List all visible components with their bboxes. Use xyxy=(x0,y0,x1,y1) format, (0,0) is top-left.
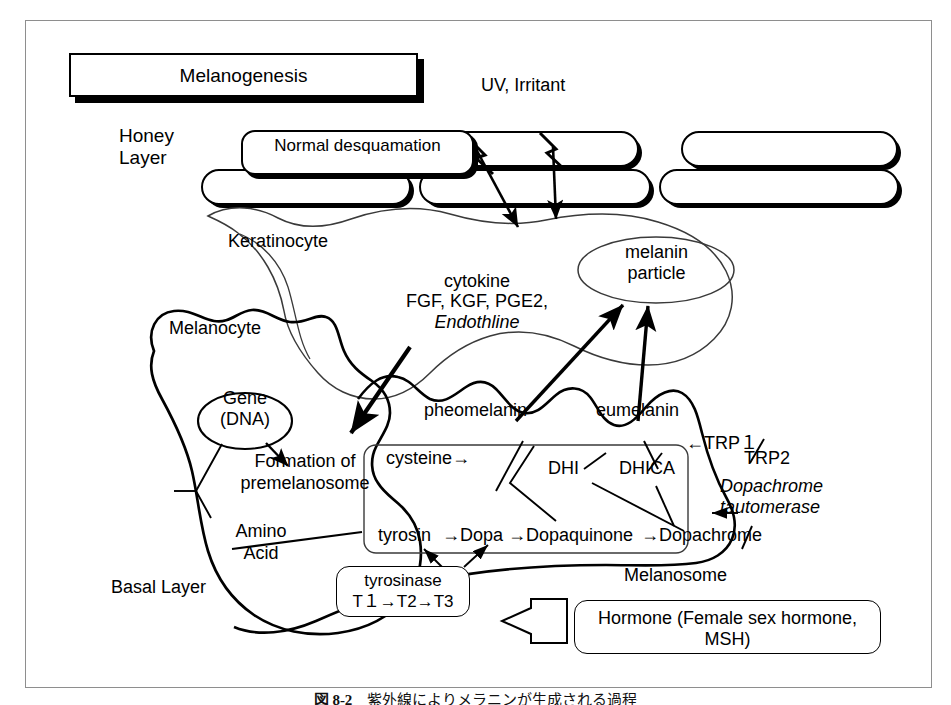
chain-dopaquinone-label: Dopaquinone xyxy=(526,526,633,545)
tyrosinase-stages-label: T１→T2→T3 xyxy=(337,592,469,612)
cytokine-endothline-label: Endothline xyxy=(368,313,586,332)
hormone-block-arrow[interactable] xyxy=(502,599,567,643)
chain-tyrosin-label: tyrosin xyxy=(378,526,431,545)
formation-premelanosome-label: Formation of premelanosome xyxy=(220,451,390,494)
figure-caption: 図 8-2 紫外線によりメラニンが生成される過程 xyxy=(0,688,951,705)
keratinocyte-label: Keratinocyte xyxy=(228,232,328,251)
keratinocyte-inner-fold xyxy=(240,234,310,359)
cytokine-arrow xyxy=(351,347,410,433)
chain-arrow-1: → xyxy=(442,526,460,545)
normal-desquamation-label: Normal desquamation xyxy=(243,136,472,155)
honey-layer-label: Honey Layer xyxy=(119,125,174,170)
dhica-label: DHICA xyxy=(619,459,675,478)
hormone-label: Hormone (Female sex hormone, MSH) xyxy=(575,608,880,650)
pheomelanin-label: pheomelanin xyxy=(424,401,527,420)
dhi-label: DHI xyxy=(548,459,579,478)
figure-number: 図 8-2 xyxy=(314,692,353,705)
amino-acid-label: Amino Acid xyxy=(216,521,306,564)
melanosome-label: Melanosome xyxy=(624,566,727,585)
dopachrome-tautomerase-label: Dopachrome tautomerase xyxy=(720,476,823,518)
figure-page: Melanogenesis UV, Irritant Honey Layer N… xyxy=(0,0,951,705)
basal-layer-label: Basal Layer xyxy=(111,578,206,597)
melanin-particle-label: melanin particle xyxy=(579,242,734,283)
pathway-leader-lines xyxy=(424,439,764,569)
eumelanin-label: eumelanin xyxy=(596,401,679,420)
uv-irritant-label: UV, Irritant xyxy=(481,76,565,95)
chain-dopachrome-label: Dopachrome xyxy=(659,526,762,545)
tyrosinase-box: tyrosinase T１→T2→T3 xyxy=(336,566,470,617)
cytokine-list-label: FGF, KGF, PGE2, xyxy=(368,292,586,311)
hormone-box: Hormone (Female sex hormone, MSH) xyxy=(574,600,881,654)
diagram-frame: Melanogenesis UV, Irritant Honey Layer N… xyxy=(25,20,932,688)
melanocyte-label: Melanocyte xyxy=(169,319,261,338)
cysteine-label: cysteine→ xyxy=(386,449,470,468)
chain-dopa-label: Dopa xyxy=(460,526,503,545)
tyrosinase-name-label: tyrosinase xyxy=(337,571,469,591)
chain-arrow-3: → xyxy=(641,526,659,545)
melanogenesis-title-label: Melanogenesis xyxy=(71,65,416,87)
figure-caption-text: 紫外線によりメラニンが生成される過程 xyxy=(367,692,637,705)
normal-desquamation-cell: Normal desquamation xyxy=(241,130,474,175)
chain-arrow-2: → xyxy=(508,526,526,545)
gene-dna-label: Gene (DNA) xyxy=(198,388,292,430)
trp2-label: TRP2 xyxy=(744,449,790,468)
melanogenesis-title-box: Melanogenesis xyxy=(69,53,418,97)
cytokine-title-label: cytokine xyxy=(392,271,562,292)
